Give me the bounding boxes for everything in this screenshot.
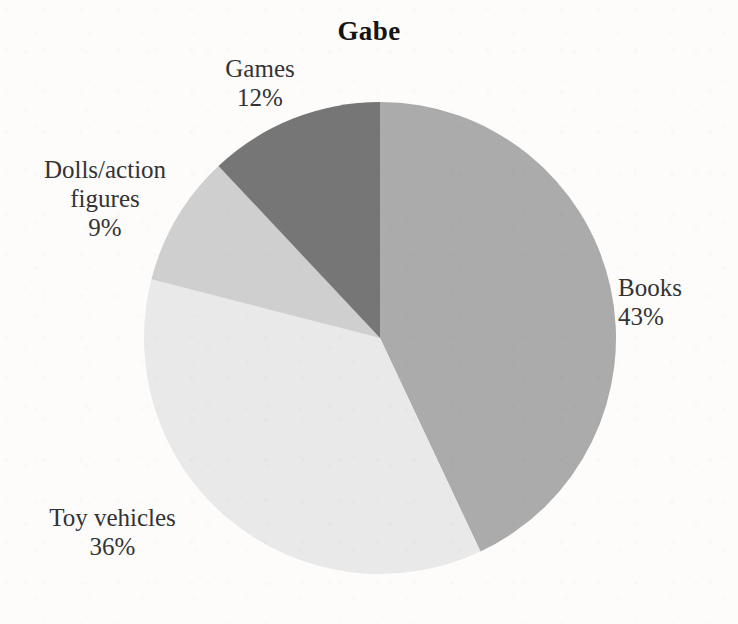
slice-label-dolls-action-figures: Dolls/action figures 9% [10, 155, 200, 242]
slice-label-dolls-action-figures-value: 9% [10, 213, 200, 242]
slice-label-books-value: 43% [618, 302, 736, 331]
slice-label-games-value: 12% [170, 83, 350, 112]
slice-label-games: Games 12% [170, 54, 350, 112]
slice-label-dolls-action-figures-name: Dolls/action figures [10, 155, 200, 213]
slice-label-books-name: Books [618, 273, 736, 302]
slice-label-games-name: Games [170, 54, 350, 83]
slice-label-toy-vehicles-value: 36% [5, 532, 220, 561]
pie-chart-figure: Gabe Games 12% Dolls/action figures 9% T… [0, 0, 738, 624]
slice-label-toy-vehicles: Toy vehicles 36% [5, 503, 220, 561]
slice-label-books: Books 43% [618, 273, 736, 331]
slice-label-toy-vehicles-name: Toy vehicles [5, 503, 220, 532]
